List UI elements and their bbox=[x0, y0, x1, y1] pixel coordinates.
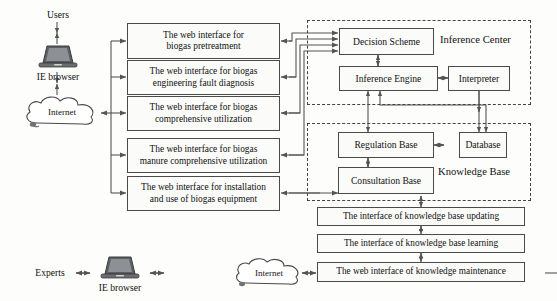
consultation-base-node[interactable]: Consultation Base bbox=[338, 167, 434, 194]
users-label: Users bbox=[39, 9, 77, 20]
architecture-diagram: Users IE browser Internet The web interf… bbox=[0, 0, 557, 301]
web-interface-biogas-pretreatment[interactable]: The web interface for biogas pretreatmen… bbox=[127, 23, 280, 59]
database-node[interactable]: Database bbox=[459, 132, 507, 158]
inference-engine-node[interactable]: Inference Engine bbox=[339, 66, 438, 91]
web-interface-1-text: The web interface for biogas pretreatmen… bbox=[163, 30, 244, 53]
interpreter-node[interactable]: Interpreter bbox=[448, 66, 510, 91]
experts-label: Experts bbox=[26, 267, 74, 278]
interface-knowledge-base-updating[interactable]: The interface of knowledge base updating bbox=[317, 207, 525, 226]
inference-center-label: Inference Center bbox=[440, 34, 511, 45]
database-label: Database bbox=[465, 139, 500, 151]
internet-top-label: Internet bbox=[20, 94, 104, 130]
web-interface-5-text: The web interface for installation and u… bbox=[141, 182, 266, 205]
inference-engine-label: Inference Engine bbox=[356, 73, 422, 85]
regulation-base-node[interactable]: Regulation Base bbox=[338, 132, 434, 158]
updating-label: The interface of knowledge base updating bbox=[343, 211, 499, 222]
ie-browser-top-icon bbox=[37, 44, 79, 70]
internet-cloud-bottom: Internet bbox=[230, 256, 308, 290]
internet-bottom-label: Internet bbox=[230, 256, 308, 290]
web-interface-3-text: The web interface for biogas comprehensi… bbox=[150, 102, 258, 125]
interface-knowledge-base-learning[interactable]: The interface of knowledge base learning bbox=[317, 234, 525, 253]
learning-label: The interface of knowledge base learning bbox=[344, 238, 498, 249]
web-interface-equipment-installation[interactable]: The web interface for installation and u… bbox=[127, 176, 280, 211]
decision-scheme-node[interactable]: Decision Scheme bbox=[339, 28, 434, 55]
web-interface-2-text: The web interface for biogas engineering… bbox=[150, 66, 258, 89]
interpreter-label: Interpreter bbox=[459, 73, 499, 85]
web-interface-manure-utilization[interactable]: The web interface for biogas manure comp… bbox=[127, 138, 280, 173]
web-interface-4-text: The web interface for biogas manure comp… bbox=[140, 144, 268, 167]
web-interface-knowledge-maintenance[interactable]: The web interface of knowledge maintenan… bbox=[317, 262, 525, 282]
regulation-base-label: Regulation Base bbox=[354, 139, 417, 151]
ie-browser-bottom-icon bbox=[99, 255, 141, 281]
web-interface-comprehensive-utilization[interactable]: The web interface for biogas comprehensi… bbox=[127, 96, 280, 131]
web-interface-fault-diagnosis[interactable]: The web interface for biogas engineering… bbox=[127, 60, 280, 95]
maintenance-label: The web interface of knowledge maintenan… bbox=[336, 266, 506, 277]
internet-cloud-top: Internet bbox=[20, 94, 104, 130]
ie-browser-bottom-label: IE browser bbox=[90, 282, 150, 293]
ie-browser-top-label: IE browser bbox=[28, 71, 88, 82]
knowledge-base-label: Knowledge Base bbox=[438, 166, 510, 177]
consultation-base-label: Consultation Base bbox=[351, 175, 421, 187]
decision-scheme-label: Decision Scheme bbox=[353, 36, 420, 48]
